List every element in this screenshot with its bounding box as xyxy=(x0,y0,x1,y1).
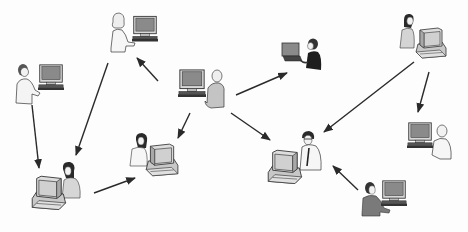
person-icon xyxy=(130,133,147,166)
person-icon xyxy=(300,131,321,170)
user-man-laptop-top xyxy=(282,39,321,71)
arrow-bald-man-center-to-woman-desktop-center-left xyxy=(178,113,190,138)
person-icon xyxy=(205,70,224,108)
arrow-woman-standing-top-to-woman-desktop-bottom-left xyxy=(76,63,108,155)
person-icon xyxy=(432,125,451,159)
monitor-icon xyxy=(407,123,433,148)
desktop-computer-icon xyxy=(416,28,446,58)
arrow-woman-desktop-top-right-to-man-glasses-desktop-center xyxy=(324,62,414,132)
user-woman-standing-top xyxy=(111,13,158,52)
monitor-icon xyxy=(38,65,64,90)
person-icon xyxy=(400,14,414,48)
user-man-standing-left xyxy=(16,64,64,104)
monitor-icon xyxy=(132,16,158,41)
person-icon xyxy=(16,64,40,104)
diagram-canvas xyxy=(0,0,468,232)
user-man-seated-bottom-right xyxy=(362,181,407,216)
arrow-man-standing-laptop-left-to-woman-desktop-bottom-left xyxy=(32,105,39,168)
monitor-icon xyxy=(381,181,407,206)
monitor-icon xyxy=(178,70,206,97)
user-bald-man-center xyxy=(178,70,224,108)
user-man-glasses-desktop xyxy=(268,131,321,184)
desktop-computer-icon xyxy=(146,144,178,176)
user-man-seated-right xyxy=(407,123,451,159)
user-woman-desktop-center-left xyxy=(130,133,178,176)
laptop-icon xyxy=(282,43,302,61)
arrow-bald-man-center-to-man-laptop-top-center xyxy=(236,73,287,95)
arrow-bald-man-center-to-man-glasses-desktop-center xyxy=(231,113,270,140)
user-woman-desktop-bottom-left xyxy=(32,162,80,210)
arrow-woman-desktop-top-right-to-man-seated-right xyxy=(418,72,429,112)
person-icon xyxy=(111,13,135,52)
arrow-bald-man-center-to-woman-standing-top xyxy=(137,58,158,81)
network-diagram xyxy=(0,0,468,232)
desktop-computer-icon xyxy=(268,150,301,183)
user-woman-desktop-top-right xyxy=(400,14,446,58)
desktop-computer-icon xyxy=(32,176,65,209)
arrows-group xyxy=(32,58,429,193)
arrow-man-seated-bottom-right-to-man-glasses-desktop-center xyxy=(333,166,358,190)
person-icon xyxy=(62,162,80,198)
arrow-woman-desktop-bottom-left-to-woman-desktop-center-left xyxy=(94,178,135,193)
person-icon xyxy=(300,39,321,71)
